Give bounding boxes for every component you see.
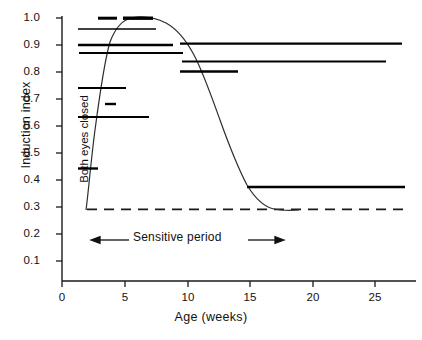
range-bars: [78, 18, 405, 187]
annotation-both-eyes-closed: Both eyes closed: [78, 79, 90, 199]
plot-area: [0, 0, 422, 340]
x-tick-marks: [62, 281, 375, 287]
y-tick-marks: [56, 18, 62, 261]
annotation-sensitive-period: Sensitive period: [133, 230, 222, 244]
chart-figure: Induction index 1.0 0.9 0.8 0.7 0.6 0.5 …: [0, 0, 422, 340]
